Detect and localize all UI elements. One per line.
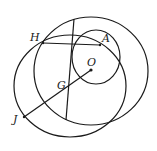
point-a-dot — [99, 44, 101, 46]
label-h: H — [29, 31, 40, 44]
vertical-chord — [66, 19, 74, 120]
label-g: G — [57, 79, 66, 92]
label-j: J — [11, 113, 18, 126]
point-h-dot — [42, 42, 44, 44]
geometry-diagram: H A O G J — [0, 0, 157, 151]
point-j-dot — [23, 116, 25, 118]
label-o: O — [87, 56, 96, 69]
label-a: A — [101, 32, 110, 45]
